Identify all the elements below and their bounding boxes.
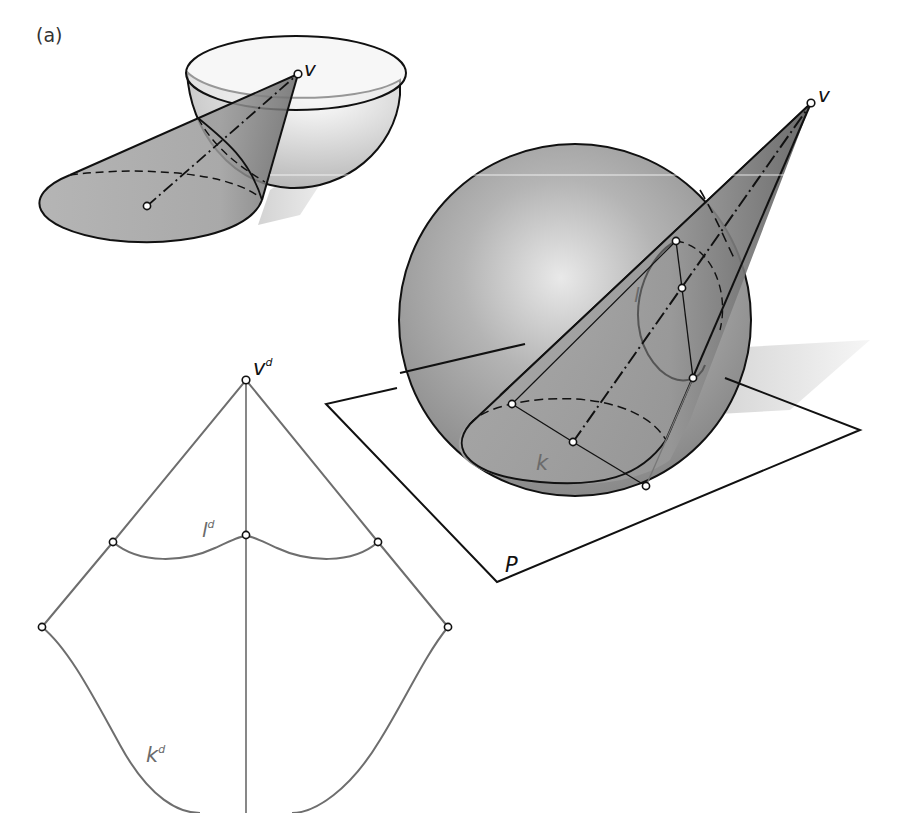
curve-k-label: k bbox=[536, 451, 549, 475]
bowl-cone-group: v bbox=[39, 36, 406, 242]
point-k-contact bbox=[642, 482, 649, 489]
figure: v (a) bbox=[0, 0, 909, 813]
point-l-right bbox=[374, 538, 381, 545]
curve-l-label: l bbox=[634, 283, 640, 307]
vertex-point bbox=[807, 99, 815, 107]
point-k-right bbox=[444, 623, 451, 630]
curve-l-d-label: ld bbox=[202, 518, 216, 542]
point-k-left bbox=[38, 623, 45, 630]
point-l-top bbox=[672, 237, 679, 244]
vertex-point bbox=[294, 70, 302, 78]
geometry-drawing: v (a) bbox=[0, 0, 909, 813]
point-l-center bbox=[242, 531, 249, 538]
vertex-d-point bbox=[242, 376, 250, 384]
point-k-center bbox=[569, 438, 576, 445]
plane-label: P bbox=[505, 553, 518, 577]
sphere-cone-group: v l k P bbox=[326, 83, 870, 582]
vertex-d-label: vd bbox=[253, 356, 273, 380]
curve-k-d-label: kd bbox=[146, 743, 166, 767]
base-center-point bbox=[143, 202, 150, 209]
point-l-axis bbox=[678, 284, 685, 291]
vertex-label: v bbox=[818, 83, 831, 107]
vertex-label: v bbox=[304, 57, 317, 81]
panel-label: (a) bbox=[36, 24, 62, 46]
point-l-bottom bbox=[689, 374, 696, 381]
point-k-left bbox=[508, 400, 515, 407]
point-l-left bbox=[109, 538, 116, 545]
oblique-cone bbox=[39, 74, 298, 242]
curve-k-development bbox=[42, 627, 448, 813]
